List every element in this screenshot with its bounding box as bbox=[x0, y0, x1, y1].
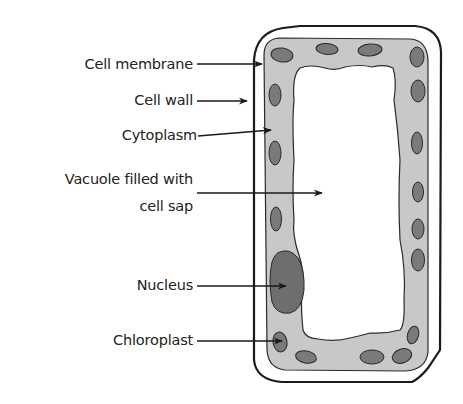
plant-cell-diagram: Cell membrane Cell wall Cytoplasm Vacuol… bbox=[0, 0, 463, 404]
nucleus-shape bbox=[270, 251, 304, 313]
vacuole bbox=[293, 66, 405, 341]
plant-cell-illustration bbox=[0, 0, 463, 404]
label-cell-membrane: Cell membrane bbox=[85, 55, 193, 73]
label-vacuole-line2: cell sap bbox=[139, 197, 193, 215]
label-vacuole-line1: Vacuole filled with bbox=[65, 170, 193, 188]
label-chloroplast: Chloroplast bbox=[113, 331, 193, 349]
label-cell-wall: Cell wall bbox=[134, 91, 193, 109]
label-nucleus: Nucleus bbox=[137, 276, 193, 294]
label-cytoplasm: Cytoplasm bbox=[122, 126, 197, 144]
